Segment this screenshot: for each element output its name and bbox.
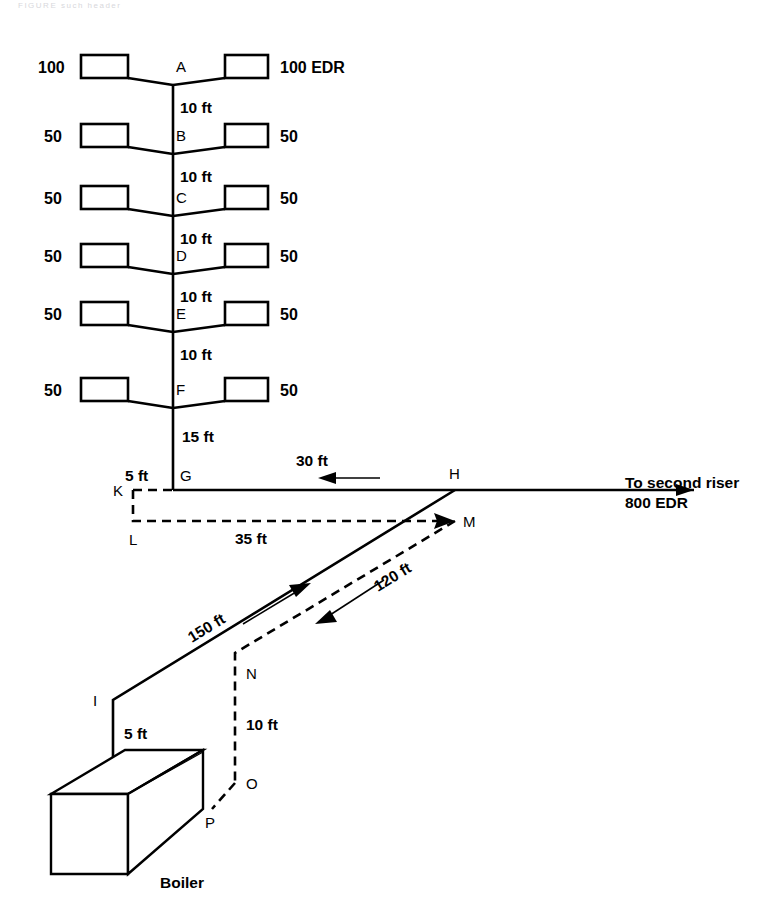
radiator-B-right <box>225 124 268 147</box>
node-label-K: K <box>113 482 123 499</box>
node-label-F: F <box>176 381 185 398</box>
node-label-C: C <box>176 189 187 206</box>
segment-F-G-length: 15 ft <box>182 428 214 445</box>
segment-I-H-length: 150 ft <box>185 610 228 646</box>
radiator-E-left <box>81 302 128 325</box>
segment-M-N-length: 120 ft <box>371 559 414 595</box>
segment-A-B-length: 10 ft <box>180 99 212 116</box>
segment-E-F-length: 10 ft <box>180 346 212 363</box>
riser-floor-F: 50 50 F 15 ft <box>44 378 298 445</box>
radiator-F-right-rating: 50 <box>280 382 298 399</box>
riser-floor-E: 50 50 E 10 ft <box>44 302 298 363</box>
branch-B-left <box>128 147 173 154</box>
segment-N-O-length: 10 ft <box>246 716 278 733</box>
radiator-C-left <box>81 186 128 209</box>
steam-main-horizontal <box>173 484 694 496</box>
node-label-H: H <box>449 465 460 482</box>
riser-floor-A: 100 100 EDR A 10 ft <box>38 55 345 116</box>
destination-label-line2: 800 EDR <box>625 494 688 511</box>
radiator-D-right <box>225 244 268 267</box>
flow-arrow-120ft: 120 ft <box>315 559 414 624</box>
flow-arrow-150ft: 150 ft <box>185 583 311 646</box>
radiator-F-left-rating: 50 <box>44 382 62 399</box>
diagram-page: FIGURE such header 100 100 EDR A 10 ft 5… <box>0 0 784 916</box>
boiler-front-face <box>51 794 128 874</box>
branch-E-right <box>173 325 225 332</box>
radiator-A-left-rating: 100 <box>38 59 65 76</box>
branch-B-right <box>173 147 225 154</box>
node-label-M: M <box>463 513 476 530</box>
dashed-M-N-O <box>235 521 455 783</box>
node-label-L: L <box>129 531 137 548</box>
radiator-A-right <box>225 55 268 78</box>
segment-C-D-length: 10 ft <box>180 230 212 247</box>
boiler-body <box>51 750 203 874</box>
radiator-D-right-rating: 50 <box>280 248 298 265</box>
segment-B-C-length: 10 ft <box>180 168 212 185</box>
radiator-F-right <box>225 378 268 401</box>
branch-F-right <box>173 401 225 408</box>
node-label-B: B <box>176 127 186 144</box>
branch-C-right <box>173 209 225 216</box>
segment-G-H-length: 30 ft <box>296 452 328 469</box>
dashed-O-P <box>212 783 235 809</box>
branch-A-left <box>128 78 173 85</box>
segment-L-M-length: 35 ft <box>235 530 267 547</box>
dashed-K-L-M <box>133 490 440 521</box>
node-label-D: D <box>176 247 187 264</box>
boiler-caption: Boiler <box>160 874 204 891</box>
branch-C-left <box>128 209 173 216</box>
return-arrowhead-M <box>434 513 455 529</box>
branch-E-left <box>128 325 173 332</box>
radiator-B-right-rating: 50 <box>280 128 298 145</box>
radiator-D-left <box>81 244 128 267</box>
condensate-return-K-L-M <box>133 490 455 529</box>
riser-floor-D: 50 50 D 10 ft <box>44 244 298 305</box>
branch-A-right <box>173 78 225 85</box>
radiator-A-left <box>81 55 128 78</box>
flow-arrow-30ft: 30 ft <box>296 452 380 484</box>
radiator-A-right-rating: 100 EDR <box>280 59 345 76</box>
radiator-E-right-rating: 50 <box>280 306 298 323</box>
segment-I-J-length: 5 ft <box>124 725 147 742</box>
radiator-D-left-rating: 50 <box>44 248 62 265</box>
branch-D-left <box>128 267 173 274</box>
radiator-E-left-rating: 50 <box>44 306 62 323</box>
branch-D-right <box>173 267 225 274</box>
radiator-F-left <box>81 378 128 401</box>
branch-F-left <box>128 401 173 408</box>
radiator-E-right <box>225 302 268 325</box>
supply-diagonal-I-to-H <box>113 490 455 772</box>
riser-floor-B: 50 50 B 10 ft <box>44 124 298 185</box>
destination-label-line1: To second riser <box>625 474 739 491</box>
node-label-A: A <box>176 58 186 75</box>
piping-diagram-canvas: 100 100 EDR A 10 ft 50 50 B 10 ft 50 50 … <box>0 0 784 916</box>
node-label-E: E <box>176 305 186 322</box>
radiator-C-left-rating: 50 <box>44 190 62 207</box>
node-label-O: O <box>246 775 258 792</box>
radiator-C-right <box>225 186 268 209</box>
node-label-N: N <box>246 665 257 682</box>
riser-floor-C: 50 50 C 10 ft <box>44 186 298 247</box>
radiator-B-left-rating: 50 <box>44 128 62 145</box>
radiator-B-left <box>81 124 128 147</box>
pipe-J-I-H <box>113 490 455 772</box>
node-label-G: G <box>180 467 192 484</box>
node-label-I: I <box>93 692 97 709</box>
segment-D-E-length: 10 ft <box>180 288 212 305</box>
radiator-C-right-rating: 50 <box>280 190 298 207</box>
node-label-P: P <box>205 814 215 831</box>
segment-G-K-length: 5 ft <box>125 467 148 484</box>
